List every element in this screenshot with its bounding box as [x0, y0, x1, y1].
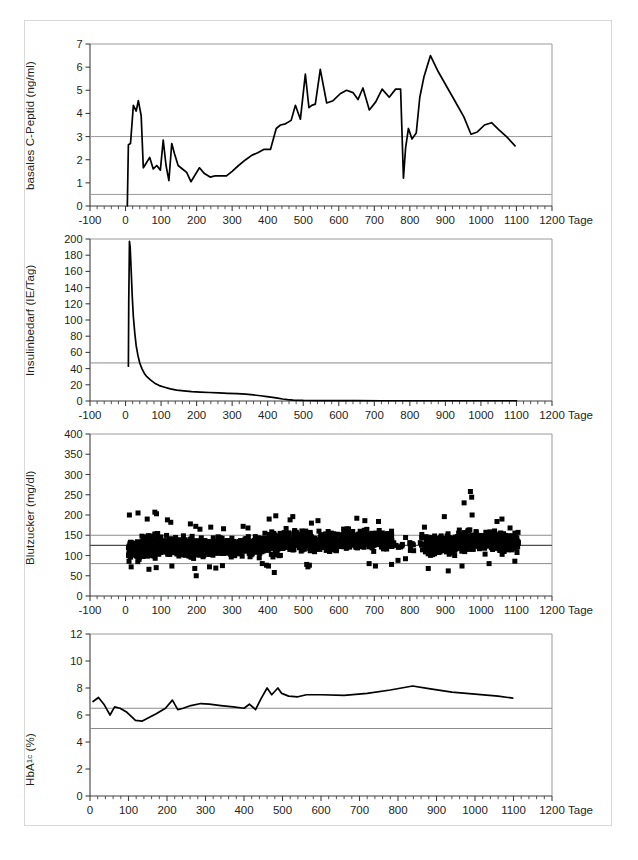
y-tick-label: 0 — [76, 395, 82, 407]
y-tick-label: 150 — [64, 529, 82, 541]
chart-svg-hba1c: 0246810120100200300400500600700800900100… — [42, 620, 612, 826]
y-tick-label: 200 — [64, 509, 82, 521]
y-tick-label: 0 — [76, 200, 82, 212]
y-tick-label: 180 — [64, 249, 82, 261]
reference-lines-c-peptid — [90, 137, 552, 195]
x-axis-blutzucker: -100010020030040050060070080090010001100… — [78, 596, 592, 616]
x-tick-label: 1100 — [501, 804, 526, 816]
y-tick-label: 400 — [64, 428, 82, 440]
chart-panel-insulinbedarf: Insulinbedarf (IE/Tag) 02040608010012014… — [24, 225, 612, 415]
y-tick-label: 12 — [70, 628, 82, 640]
x-tick-label: 400 — [258, 604, 277, 616]
y-tick-label: 7 — [76, 38, 82, 50]
y-tick-label: 6 — [76, 709, 82, 721]
x-axis-unit-label: Tage — [568, 804, 593, 816]
y-tick-label: 8 — [76, 682, 82, 694]
x-tick-label: 200 — [157, 804, 176, 816]
y-tick-label: 4 — [76, 107, 82, 119]
x-tick-label: 0 — [122, 604, 128, 616]
x-tick-label: 700 — [350, 804, 369, 816]
y-tick-label: 100 — [64, 314, 82, 326]
chart-svg-insulinbedarf: 020406080100120140160180200-100010020030… — [42, 225, 612, 421]
y-axis-insulinbedarf: 020406080100120140160180200 — [64, 233, 90, 407]
y-tick-label: 2 — [76, 763, 82, 775]
y-tick-label: 5 — [76, 84, 82, 96]
y-tick-label: 6 — [76, 61, 82, 73]
plot-area-blutzucker: 050100150200250300350400-100010020030040… — [42, 420, 612, 620]
x-tick-label: 500 — [273, 804, 292, 816]
x-tick-label: 100 — [119, 804, 138, 816]
chart-panel-blutzucker: Blutzucker (mg/dl) 050100150200250300350… — [24, 420, 612, 615]
y-tick-label: 250 — [64, 489, 82, 501]
y-tick-label: 4 — [76, 736, 82, 748]
y-tick-label: 0 — [76, 590, 82, 602]
y-tick-label: 350 — [64, 448, 82, 460]
y-axis-label-blutzucker: Blutzucker (mg/dl) — [24, 430, 40, 605]
x-tick-label: 600 — [329, 604, 348, 616]
data-series-c-peptid — [127, 56, 515, 206]
y-tick-label: 20 — [70, 379, 82, 391]
plot-area-hba1c: 0246810120100200300400500600700800900100… — [42, 620, 612, 826]
y-tick-label: 50 — [70, 570, 82, 582]
x-tick-label: -100 — [78, 604, 101, 616]
x-tick-label: 600 — [311, 804, 330, 816]
x-tick-label: 1000 — [462, 804, 488, 816]
x-tick-label: 400 — [234, 804, 253, 816]
y-tick-label: 160 — [64, 265, 82, 277]
y-tick-label: 140 — [64, 282, 82, 294]
y-tick-label: 0 — [76, 790, 82, 802]
plot-area-c-peptid: 01234567-1000100200300400500600700800900… — [42, 30, 612, 226]
chart-svg-blutzucker: 050100150200250300350400-100010020030040… — [42, 420, 612, 620]
y-tick-label: 300 — [64, 469, 82, 481]
axes-frame-blutzucker — [90, 434, 552, 596]
x-tick-label: 700 — [365, 604, 384, 616]
x-tick-label: 0 — [87, 804, 93, 816]
plot-area-insulinbedarf: 020406080100120140160180200-100010020030… — [42, 225, 612, 421]
y-tick-label: 60 — [70, 346, 82, 358]
chart-panel-c-peptid: basales C-Peptid (ng/ml) 01234567-100010… — [24, 30, 612, 220]
x-tick-label: 1200 — [539, 804, 565, 816]
x-tick-label: 300 — [196, 804, 215, 816]
x-tick-label: 1200 — [539, 604, 565, 616]
axes-frame-insulinbedarf — [90, 239, 552, 401]
y-tick-label: 80 — [70, 330, 82, 342]
y-axis-label-insulinbedarf: Insulinbedarf (IE/Tag) — [24, 233, 40, 408]
x-tick-label: 500 — [294, 604, 313, 616]
data-series-insulinbedarf — [128, 241, 516, 400]
x-tick-label: 900 — [427, 804, 446, 816]
x-tick-label: 800 — [400, 604, 419, 616]
y-tick-label: 2 — [76, 154, 82, 166]
chart-svg-c-peptid: 01234567-1000100200300400500600700800900… — [42, 30, 612, 226]
x-axis-hba1c: 0100200300400500600700800900100011001200… — [87, 796, 593, 816]
y-tick-label: 100 — [64, 550, 82, 562]
x-tick-label: 200 — [187, 604, 206, 616]
x-tick-label: 1100 — [504, 604, 529, 616]
y-axis-label-c-peptid: basales C-Peptid (ng/ml) — [24, 38, 40, 213]
y-tick-label: 10 — [70, 655, 82, 667]
y-axis-blutzucker: 050100150200250300350400 — [64, 428, 90, 602]
x-axis-unit-label: Tage — [568, 604, 593, 616]
y-tick-label: 120 — [64, 298, 82, 310]
axes-frame-c-peptid — [90, 44, 552, 206]
x-tick-label: 800 — [388, 804, 407, 816]
y-tick-label: 1 — [76, 177, 82, 189]
x-tick-label: 1000 — [468, 604, 494, 616]
y-axis-hba1c: 024681012 — [70, 628, 90, 802]
y-tick-label: 40 — [70, 363, 82, 375]
x-tick-label: 900 — [436, 604, 455, 616]
x-axis-c-peptid: -100010020030040050060070080090010001100… — [78, 206, 592, 226]
data-series-hba1c — [93, 686, 513, 721]
figure-page: basales C-Peptid (ng/ml) 01234567-100010… — [0, 0, 638, 860]
data-points-blutzucker — [126, 489, 521, 578]
chart-panel-hba1c: HbA1c (%) 024681012010020030040050060070… — [24, 620, 612, 830]
x-tick-label: 100 — [151, 604, 170, 616]
y-tick-label: 3 — [76, 131, 82, 143]
hba1c-label-text: HbA1c (%) — [24, 734, 36, 787]
axes-frame-hba1c — [90, 634, 552, 796]
x-axis-insulinbedarf: -100010020030040050060070080090010001100… — [78, 401, 592, 421]
y-axis-c-peptid: 01234567 — [76, 38, 90, 212]
x-tick-label: 300 — [223, 604, 242, 616]
y-axis-label-hba1c: HbA1c (%) — [24, 715, 40, 805]
y-tick-label: 200 — [64, 233, 82, 245]
